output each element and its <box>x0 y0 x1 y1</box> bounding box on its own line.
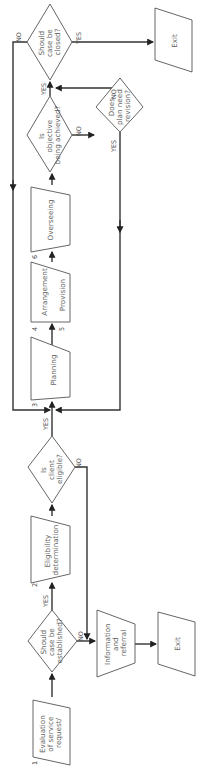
provision-label: Provision <box>58 279 67 311</box>
step-numbers: 1 2 3 4 5 6 <box>31 255 66 765</box>
exit-bottom-label: Exit <box>173 637 182 651</box>
step-number-3: 3 <box>31 403 39 407</box>
eligible-no-label: NO <box>75 458 83 468</box>
objective-no-label: NO <box>75 126 83 136</box>
svg-text:Overseeing: Overseeing <box>46 200 55 241</box>
revision-label-3: revision? <box>123 90 132 122</box>
establish-label-3: established? <box>55 618 64 663</box>
step-number-2: 2 <box>31 583 39 587</box>
objective-yes-label: YES <box>40 83 48 96</box>
close-no-label: NO <box>15 32 23 42</box>
overseeing-label: Overseeing <box>46 200 55 241</box>
evaluation-label-3: request/ <box>54 718 63 748</box>
step-number-4: 4 <box>31 327 39 331</box>
svg-text:Planning: Planning <box>49 355 58 386</box>
establish-no-label: NO <box>77 631 85 641</box>
planning-label: Planning <box>49 355 58 386</box>
revision-no-label: NO <box>110 89 118 99</box>
eligibility-label-2: determination <box>51 525 60 576</box>
flowchart-canvas: Evaluation of service request/ Should ca… <box>0 0 203 773</box>
close-yes-label: YES <box>75 32 83 45</box>
step-number-5: 5 <box>58 327 66 331</box>
svg-text:Should case be clo: Should case be closed? <box>37 27 62 57</box>
svg-text:Exit: Exit <box>173 637 182 651</box>
svg-text:Exit: Exit <box>170 34 179 48</box>
svg-text:Arrangement: Arrangement <box>40 268 49 316</box>
eligible-yes-label: YES <box>42 418 50 431</box>
info-label-3: referral <box>119 630 128 656</box>
step-number-6: 6 <box>31 255 39 259</box>
close-label-3: closed? <box>53 28 62 55</box>
objective-label-3: being achieved? <box>53 105 62 164</box>
establish-yes-label: YES <box>42 595 50 608</box>
exit-top-label: Exit <box>170 34 179 48</box>
revision-yes-label: YES <box>110 140 118 153</box>
flowchart: Evaluation of service request/ Should ca… <box>0 0 203 773</box>
arrangement-label: Arrangement <box>40 268 49 316</box>
svg-text:Provision: Provision <box>58 279 67 311</box>
eligible-label-3: eligible? <box>55 454 64 484</box>
svg-text:Evaluation of service: Evaluation of service request/ <box>38 713 63 753</box>
step-number-1: 1 <box>31 761 39 765</box>
